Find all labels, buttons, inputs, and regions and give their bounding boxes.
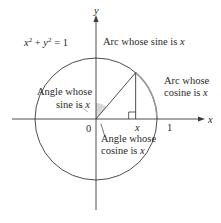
angle-cosine-label-line2: cosine is x <box>101 145 145 156</box>
y-axis-label: y <box>93 5 99 16</box>
x-axis-label: x <box>207 114 213 125</box>
arc-cosine-label-line1: Arc whose <box>164 75 210 86</box>
angle-cosine-label-line1: Angle whose <box>101 133 156 144</box>
cosine-arc <box>136 73 157 119</box>
y-axis-arrow-icon <box>94 15 99 22</box>
unit-circle-diagram: x2 + y2 = 1 y x 0 1 x Arc whose sine is … <box>0 0 221 223</box>
arc-cosine-label-line2: cosine is x <box>164 87 208 98</box>
right-angle-marker <box>129 112 136 119</box>
x-axis-arrow-icon <box>198 117 205 122</box>
angle-sine-label-line1: Angle whose <box>37 86 92 97</box>
x-tick-label: x <box>134 122 140 133</box>
arc-sine-label: Arc whose sine is x <box>103 36 185 47</box>
one-label: 1 <box>167 122 172 133</box>
circle-equation: x2 + y2 = 1 <box>23 36 68 48</box>
origin-label: 0 <box>86 123 91 134</box>
angle-sine-label-line2: sine is x <box>56 99 90 110</box>
